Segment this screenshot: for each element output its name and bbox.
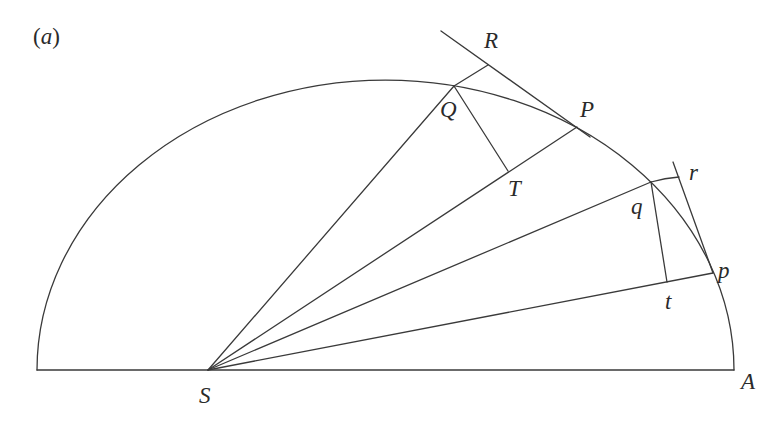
segment-QR [454,65,488,86]
label-R: R [483,28,498,53]
tangent-PR [441,31,590,137]
label-p: p [716,258,730,283]
label-t: t [665,289,672,314]
label-A: A [739,369,756,394]
label-S: S [199,383,211,408]
segment-QT [454,86,508,171]
label-r: r [689,160,699,185]
label-T: T [508,176,523,201]
panel-label: (a) [33,24,60,49]
label-P: P [579,97,594,122]
radius-SP [208,127,577,370]
label-Q: Q [440,97,457,122]
orbit-diagram: (a) R Q P T r q p t S A [0,0,784,424]
orbit-arc [37,80,734,370]
label-q: q [631,194,643,219]
segment-qr [651,177,679,182]
radius-SQ [208,86,454,370]
radius-Sq [208,182,651,370]
radius-Sp [208,273,713,370]
